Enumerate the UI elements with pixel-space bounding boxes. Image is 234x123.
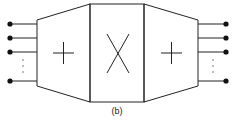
output-lines	[198, 24, 226, 81]
plus-icon	[53, 42, 74, 64]
center-multiplier-block	[90, 4, 144, 102]
output-terminals	[223, 21, 228, 83]
block-diagram	[0, 0, 234, 123]
figure-caption: (b)	[0, 106, 234, 116]
input-ellipsis	[22, 59, 23, 72]
output-ellipsis	[212, 59, 213, 72]
plus-icon	[161, 42, 182, 64]
input-terminals	[7, 21, 12, 83]
multiply-icon	[107, 34, 129, 73]
